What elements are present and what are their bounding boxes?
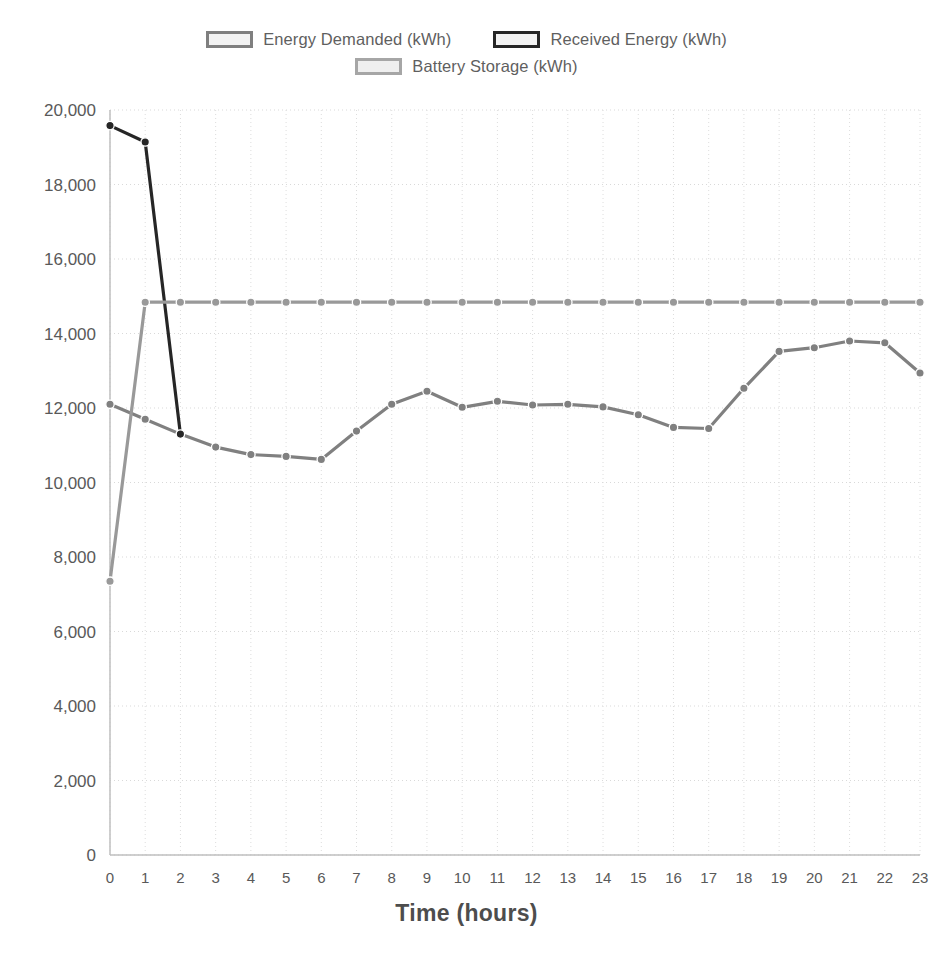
data-point-marker[interactable] [423, 298, 431, 306]
data-point-marker[interactable] [564, 400, 572, 408]
data-point-marker[interactable] [669, 423, 677, 431]
data-point-marker[interactable] [458, 403, 466, 411]
data-point-marker[interactable] [458, 298, 466, 306]
data-point-marker[interactable] [564, 298, 572, 306]
data-point-marker[interactable] [916, 369, 924, 377]
data-point-marker[interactable] [528, 298, 536, 306]
x-axis-tick-label: 20 [806, 869, 823, 886]
data-point-marker[interactable] [705, 424, 713, 432]
line-chart: 02,0004,0006,0008,00010,00012,00014,0001… [0, 0, 933, 975]
data-point-marker[interactable] [423, 387, 431, 395]
data-point-marker[interactable] [634, 298, 642, 306]
data-point-marker[interactable] [740, 384, 748, 392]
data-point-marker[interactable] [176, 430, 184, 438]
x-axis-tick-label: 23 [912, 869, 929, 886]
data-point-marker[interactable] [212, 298, 220, 306]
data-point-marker[interactable] [881, 339, 889, 347]
x-axis-title: Time (hours) [0, 900, 933, 927]
chart-plot-area: 02,0004,0006,0008,00010,00012,00014,0001… [0, 0, 933, 975]
y-axis-tick-label: 6,000 [53, 623, 96, 642]
y-axis-tick-label: 0 [87, 846, 96, 865]
data-point-marker[interactable] [634, 411, 642, 419]
data-point-marker[interactable] [388, 298, 396, 306]
data-point-marker[interactable] [106, 400, 114, 408]
y-axis-tick-label: 2,000 [53, 772, 96, 791]
x-axis-tick-label: 9 [423, 869, 431, 886]
data-point-marker[interactable] [810, 344, 818, 352]
data-point-marker[interactable] [176, 298, 184, 306]
data-point-marker[interactable] [141, 138, 149, 146]
y-axis-tick-label: 14,000 [44, 325, 96, 344]
data-point-marker[interactable] [106, 577, 114, 585]
y-axis-tick-label: 16,000 [44, 250, 96, 269]
x-axis-tick-label: 7 [352, 869, 360, 886]
x-axis-tick-label: 17 [700, 869, 717, 886]
data-point-marker[interactable] [247, 450, 255, 458]
y-axis-tick-label: 12,000 [44, 399, 96, 418]
data-point-marker[interactable] [881, 298, 889, 306]
chart-gridlines [110, 110, 920, 855]
x-axis-tick-label: 2 [176, 869, 184, 886]
data-point-marker[interactable] [740, 298, 748, 306]
y-axis-tick-label: 4,000 [53, 697, 96, 716]
data-point-marker[interactable] [317, 455, 325, 463]
x-axis-tick-label: 15 [630, 869, 647, 886]
x-axis-tick-label: 12 [524, 869, 541, 886]
data-point-marker[interactable] [845, 337, 853, 345]
x-axis-tick-labels: 01234567891011121314151617181920212223 [106, 869, 929, 886]
data-point-marker[interactable] [282, 452, 290, 460]
data-point-marker[interactable] [810, 298, 818, 306]
x-axis-tick-label: 0 [106, 869, 114, 886]
x-axis-tick-label: 11 [490, 869, 506, 886]
x-axis-tick-label: 22 [876, 869, 893, 886]
chart-series [106, 337, 924, 464]
data-point-marker[interactable] [352, 298, 360, 306]
x-axis-tick-label: 4 [247, 869, 255, 886]
y-axis-tick-label: 10,000 [44, 474, 96, 493]
x-axis-tick-label: 14 [595, 869, 612, 886]
y-axis-tick-label: 18,000 [44, 176, 96, 195]
y-axis-tick-label: 8,000 [53, 548, 96, 567]
data-point-marker[interactable] [528, 401, 536, 409]
data-point-marker[interactable] [141, 298, 149, 306]
x-axis-tick-label: 5 [282, 869, 290, 886]
data-point-marker[interactable] [845, 298, 853, 306]
data-point-marker[interactable] [352, 427, 360, 435]
y-axis-tick-labels: 02,0004,0006,0008,00010,00012,00014,0001… [44, 101, 96, 865]
data-point-marker[interactable] [599, 298, 607, 306]
data-point-marker[interactable] [705, 298, 713, 306]
data-point-marker[interactable] [775, 347, 783, 355]
data-point-marker[interactable] [493, 397, 501, 405]
x-axis-tick-label: 13 [559, 869, 576, 886]
chart-series-layer [106, 121, 924, 585]
data-point-marker[interactable] [141, 415, 149, 423]
data-point-marker[interactable] [599, 403, 607, 411]
data-point-marker[interactable] [106, 121, 114, 129]
x-axis-tick-label: 1 [141, 869, 149, 886]
data-point-marker[interactable] [775, 298, 783, 306]
data-point-marker[interactable] [282, 298, 290, 306]
data-point-marker[interactable] [317, 298, 325, 306]
x-axis-tick-label: 19 [771, 869, 788, 886]
chart-series [106, 298, 924, 585]
x-axis-tick-label: 16 [665, 869, 682, 886]
data-point-marker[interactable] [669, 298, 677, 306]
data-point-marker[interactable] [212, 443, 220, 451]
x-axis-tick-label: 18 [736, 869, 753, 886]
data-point-marker[interactable] [388, 400, 396, 408]
x-axis-tick-label: 3 [211, 869, 219, 886]
x-axis-tick-label: 6 [317, 869, 325, 886]
data-point-marker[interactable] [247, 298, 255, 306]
y-axis-tick-label: 20,000 [44, 101, 96, 120]
x-axis-tick-label: 8 [388, 869, 396, 886]
data-point-marker[interactable] [916, 298, 924, 306]
x-axis-tick-label: 21 [841, 869, 858, 886]
data-point-marker[interactable] [493, 298, 501, 306]
x-axis-tick-label: 10 [454, 869, 471, 886]
